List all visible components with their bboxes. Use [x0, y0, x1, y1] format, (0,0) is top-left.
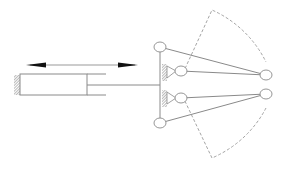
joint-upper-pivot — [175, 66, 187, 76]
fixed-pivot-upper — [162, 64, 176, 81]
joint-lower-pivot — [175, 93, 187, 103]
arrow-right-icon — [118, 63, 138, 68]
joint-upper-tip — [260, 70, 272, 80]
motion-arrow — [26, 63, 138, 68]
joint-bottom — [154, 118, 166, 128]
mechanism-diagram — [0, 0, 287, 169]
swing-arc — [183, 10, 266, 158]
ground-support-left — [14, 75, 20, 95]
joint-lower-tip — [260, 89, 272, 99]
diagram-svg — [0, 0, 287, 169]
fixed-pivot-lower — [162, 90, 176, 107]
arrow-left-icon — [26, 63, 46, 68]
joint-top — [154, 42, 166, 52]
